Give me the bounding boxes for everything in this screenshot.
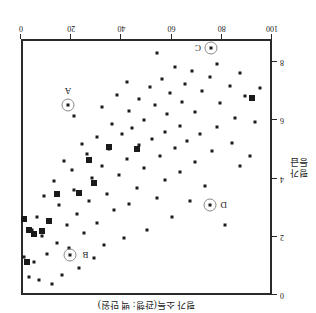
data-point-dot: [83, 232, 86, 235]
data-point-dot: [168, 91, 171, 94]
data-point-dot: [233, 116, 236, 119]
data-point-dot: [238, 72, 241, 75]
data-point-dot: [80, 143, 83, 146]
y-axis-title-line-2: 등급: [286, 156, 312, 167]
data-point-dot: [120, 133, 123, 136]
data-point-dot: [253, 120, 256, 123]
data-point-dot: [148, 86, 151, 89]
data-point-dot: [125, 157, 128, 160]
data-point-square: [86, 157, 92, 163]
data-point-dot: [65, 223, 68, 226]
data-point-dot: [183, 83, 186, 86]
y-axis-tick-mark: [272, 61, 277, 62]
data-point-dot: [63, 159, 66, 162]
data-point-dot: [138, 97, 141, 100]
x-axis-tick-label: 0: [19, 24, 23, 33]
data-point-dot: [171, 215, 174, 218]
x-axis-tick-label: 60: [168, 24, 176, 33]
y-axis-tick-label: 8: [280, 58, 294, 67]
data-point-dot: [163, 179, 166, 182]
data-point-dot: [238, 164, 241, 167]
y-axis-tick-label: 2: [280, 232, 294, 241]
data-point-dot: [115, 93, 118, 96]
data-point-dot: [135, 186, 138, 189]
data-point-dot: [161, 78, 164, 81]
data-point-dot: [58, 204, 61, 207]
annotation-label-c: C: [195, 43, 201, 53]
x-axis-tick-label: 20: [67, 24, 75, 33]
data-point-dot: [88, 200, 91, 203]
y-axis-tick-label: 0: [280, 291, 294, 300]
data-point-dot: [166, 113, 169, 116]
annotation-ring-b: [64, 248, 77, 261]
data-point-dot: [125, 81, 128, 84]
y-axis-tick-label: 6: [280, 116, 294, 125]
data-point-dot: [216, 62, 219, 65]
data-point-dot: [228, 84, 231, 87]
data-point-dot: [193, 160, 196, 163]
data-point-dot: [75, 212, 78, 215]
data-point-dot: [128, 110, 131, 113]
data-point-square: [26, 227, 32, 233]
data-point-dot: [103, 244, 106, 247]
data-point-dot: [110, 122, 113, 125]
data-point-dot: [123, 237, 126, 240]
data-point-square: [76, 190, 82, 196]
data-point-dot: [73, 115, 76, 118]
data-point-dot: [100, 165, 103, 168]
data-point-square: [24, 259, 30, 265]
y-axis-title-line-1: 평가: [286, 167, 312, 178]
data-point-dot: [105, 192, 108, 195]
data-point-dot: [248, 154, 251, 157]
data-point-dot: [143, 167, 146, 170]
plot-area: ABCD: [21, 39, 272, 295]
data-point-dot: [55, 241, 58, 244]
data-point-dot: [258, 86, 261, 89]
data-point-square: [39, 228, 45, 234]
data-point-dot: [143, 118, 146, 121]
data-point-square: [249, 95, 255, 101]
y-axis-title: 평가 등급: [286, 156, 312, 178]
y-axis-tick-mark: [272, 294, 277, 295]
data-point-dot: [208, 76, 211, 79]
data-point-dot: [223, 223, 226, 226]
data-point-dot: [128, 203, 131, 206]
data-point-dot: [231, 142, 234, 145]
data-point-dot: [203, 184, 206, 187]
data-point-dot: [93, 256, 96, 259]
data-point-dot: [198, 132, 201, 135]
data-point-dot: [28, 276, 31, 279]
data-point-dot: [156, 52, 159, 55]
annotation-ring-d: [203, 199, 216, 212]
data-point-dot: [95, 221, 98, 224]
y-axis-tick-mark: [272, 178, 277, 179]
data-point-dot: [158, 154, 161, 157]
data-point-dot: [153, 104, 156, 107]
data-point-dot: [85, 152, 88, 155]
data-point-dot: [218, 102, 221, 105]
data-point-dot: [130, 126, 133, 129]
data-point-dot: [156, 196, 159, 199]
data-point-dot: [178, 171, 181, 174]
data-point-dot: [188, 200, 191, 203]
data-point-dot: [193, 111, 196, 114]
data-point-dot: [40, 235, 43, 238]
data-point-dot: [50, 282, 53, 285]
data-point-square: [46, 218, 52, 224]
data-point-dot: [113, 209, 116, 212]
data-point-dot: [216, 125, 219, 128]
x-axis-tick-label: 100: [266, 24, 278, 33]
data-point-dot: [186, 140, 189, 143]
data-point-dot: [211, 150, 214, 153]
data-point-dot: [53, 180, 56, 183]
data-point-dot: [181, 101, 184, 104]
data-point-dot: [191, 70, 194, 73]
data-point-dot: [35, 215, 38, 218]
annotation-label-b: B: [82, 250, 88, 260]
data-point-dot: [178, 124, 181, 127]
y-axis-tick-mark: [272, 119, 277, 120]
data-point-dot: [173, 65, 176, 68]
x-axis-tick-label: 80: [218, 24, 226, 33]
data-point-dot: [163, 130, 166, 133]
data-point-square: [54, 191, 60, 197]
